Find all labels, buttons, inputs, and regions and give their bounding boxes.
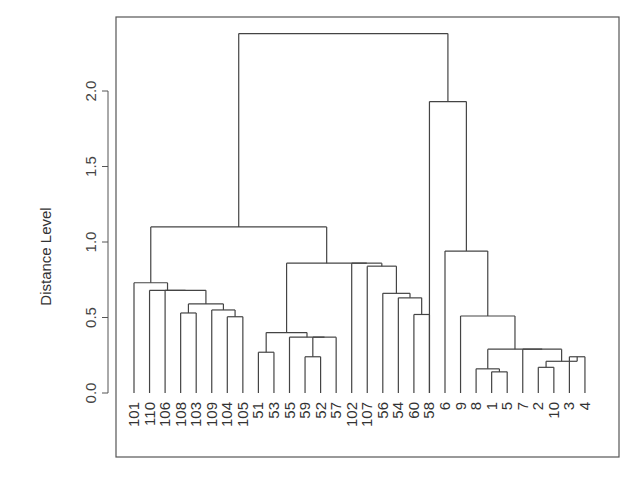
svg-text:2.0: 2.0 <box>82 81 99 102</box>
svg-text:1.0: 1.0 <box>82 232 99 253</box>
svg-text:109: 109 <box>203 402 220 427</box>
svg-text:56: 56 <box>374 402 391 419</box>
svg-text:8: 8 <box>467 402 484 410</box>
svg-text:1.5: 1.5 <box>82 156 99 177</box>
svg-text:53: 53 <box>265 402 282 419</box>
svg-text:102: 102 <box>343 402 360 427</box>
svg-text:104: 104 <box>218 402 235 427</box>
svg-text:105: 105 <box>234 402 251 427</box>
svg-text:4: 4 <box>576 402 593 410</box>
svg-text:106: 106 <box>156 402 173 427</box>
svg-text:0.5: 0.5 <box>82 307 99 328</box>
leaf-labels: 1011101061081031091041055153555952571021… <box>125 402 593 427</box>
svg-text:101: 101 <box>125 402 142 427</box>
svg-text:51: 51 <box>249 402 266 419</box>
dendrogram-tree <box>134 34 585 393</box>
svg-text:6: 6 <box>436 402 453 410</box>
svg-text:0.0: 0.0 <box>82 383 99 404</box>
svg-text:1: 1 <box>483 402 500 410</box>
svg-text:2: 2 <box>529 402 546 410</box>
svg-text:58: 58 <box>420 402 437 419</box>
y-axis-label: Distance Level <box>37 182 54 332</box>
svg-text:3: 3 <box>560 402 577 410</box>
svg-text:52: 52 <box>312 402 329 419</box>
svg-text:57: 57 <box>327 402 344 419</box>
svg-text:5: 5 <box>498 402 515 410</box>
svg-text:54: 54 <box>389 402 406 419</box>
svg-text:110: 110 <box>141 402 158 426</box>
svg-text:10: 10 <box>545 402 562 419</box>
svg-text:107: 107 <box>358 402 375 427</box>
svg-text:59: 59 <box>296 402 313 419</box>
svg-text:9: 9 <box>452 402 469 410</box>
y-axis: 0.00.51.01.52.0 <box>82 81 108 404</box>
dendrogram-chart: 0.00.51.01.52.0 101110106108103109104105… <box>0 0 639 482</box>
svg-text:7: 7 <box>514 402 531 410</box>
svg-text:108: 108 <box>172 402 189 427</box>
svg-text:55: 55 <box>281 402 298 419</box>
svg-text:103: 103 <box>187 402 204 427</box>
svg-text:60: 60 <box>405 402 422 419</box>
